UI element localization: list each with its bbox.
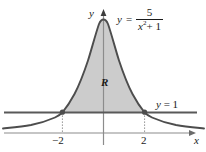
curve-equation-label: y = 5 x2+ 1: [117, 7, 163, 32]
x-tick-label-pos2: 2: [141, 135, 147, 146]
figure-container: y x R −2 2 y = 1 y = 5 x2+ 1: [0, 0, 206, 152]
y-axis-arrow-icon: [101, 9, 107, 16]
line-equation-rest: = 1: [164, 98, 178, 110]
curve-equation-fraction: 5 x2+ 1: [136, 7, 163, 32]
x-tick-label-neg2: −2: [52, 135, 64, 146]
x-axis-label: x: [194, 135, 199, 146]
y-axis-label: y: [89, 8, 94, 19]
curve-equation-lhs: y: [117, 14, 122, 25]
line-equation-variable: y: [156, 98, 161, 110]
curve-equation-denominator: x2+ 1: [136, 20, 163, 32]
denominator-tail: + 1: [147, 20, 161, 32]
curve-equation-numerator: 5: [144, 7, 156, 19]
intersection-point-right: [142, 110, 147, 115]
region-label-R: R: [101, 77, 108, 88]
intersection-point-left: [60, 110, 65, 115]
line-equation-label: y = 1: [156, 99, 178, 110]
curve-equation-equals-sign: =: [126, 14, 132, 25]
